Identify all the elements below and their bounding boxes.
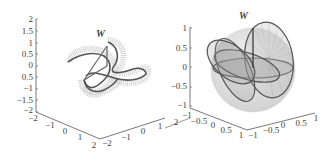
svg-text:0: 0 — [211, 120, 216, 130]
svg-text:1: 1 — [158, 121, 163, 131]
svg-text:−0.5: −0.5 — [191, 116, 208, 126]
svg-text:2: 2 — [29, 14, 34, 24]
right-x-tick-labels: 2 −1 −0.5 0 0.5 1 — [174, 110, 244, 140]
left-w-label: W — [96, 28, 106, 39]
left-y-tick-labels: −2 −1 0 1 — [102, 121, 162, 148]
svg-text:1: 1 — [239, 130, 244, 140]
svg-text:1.5: 1.5 — [22, 26, 34, 36]
right-w-label: W — [239, 10, 249, 21]
svg-text:0: 0 — [63, 126, 68, 136]
svg-text:1: 1 — [183, 23, 188, 33]
left-plot-svg: 2 1.5 1 0.5 0 0.5 −1 −1.5 −2 −2 −1 0 1 2 — [0, 0, 165, 155]
svg-text:−1: −1 — [23, 83, 33, 93]
svg-text:0: 0 — [29, 60, 34, 70]
svg-text:1: 1 — [29, 38, 34, 48]
svg-text:−1: −1 — [177, 100, 187, 110]
svg-text:−1: −1 — [45, 120, 55, 130]
left-plot-3d-knot: 2 1.5 1 0.5 0 0.5 −1 −1.5 −2 −2 −1 0 1 2 — [0, 0, 165, 155]
svg-text:−2: −2 — [28, 113, 38, 123]
svg-text:0.5: 0.5 — [22, 49, 34, 59]
right-y-tick-labels: −1 −0.5 0 0.5 1 — [248, 113, 318, 140]
left-x-tick-labels: −2 −1 0 1 2 — [28, 113, 96, 150]
left-y-axis — [100, 118, 165, 139]
svg-text:−1: −1 — [121, 132, 131, 142]
svg-text:2: 2 — [92, 140, 97, 150]
svg-text:0: 0 — [141, 126, 146, 136]
svg-text:1: 1 — [314, 113, 319, 123]
svg-text:1: 1 — [78, 132, 83, 142]
svg-text:−0.5: −0.5 — [171, 81, 188, 91]
svg-text:−1: −1 — [248, 130, 258, 140]
svg-text:0: 0 — [281, 120, 286, 130]
right-z-tick-labels: 1 0.5 0 −0.5 −1 — [171, 23, 188, 110]
left-z-tick-labels: 2 1.5 1 0.5 0 0.5 −1 −1.5 −2 — [17, 14, 34, 115]
right-plot-3d-sphere: 1 0.5 0 −0.5 −1 2 −1 −0.5 0 0.5 1 −1 −0.… — [165, 0, 331, 155]
svg-text:0.5: 0.5 — [22, 72, 34, 82]
right-plot-svg: 1 0.5 0 −0.5 −1 2 −1 −0.5 0 0.5 1 −1 −0.… — [165, 0, 331, 155]
svg-text:−0.5: −0.5 — [263, 125, 280, 135]
svg-text:2: 2 — [174, 117, 179, 127]
svg-text:0.5: 0.5 — [176, 43, 188, 53]
svg-text:−1.5: −1.5 — [17, 95, 34, 105]
svg-text:0: 0 — [183, 62, 188, 72]
svg-text:0.5: 0.5 — [220, 125, 232, 135]
svg-text:−2: −2 — [102, 138, 112, 148]
svg-text:0.5: 0.5 — [295, 118, 307, 128]
